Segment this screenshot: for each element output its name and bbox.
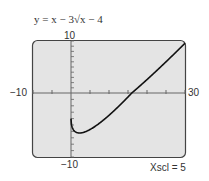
screen-frame xyxy=(33,41,186,158)
graph-screen xyxy=(0,0,209,181)
